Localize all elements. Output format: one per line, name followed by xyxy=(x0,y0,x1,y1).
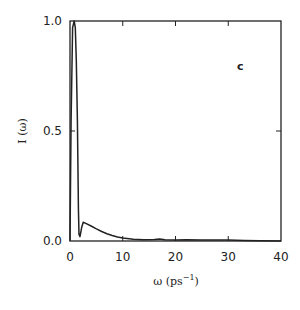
plot-border xyxy=(70,21,281,241)
y-tick-label: 0.5 xyxy=(43,124,62,138)
x-tick-label: 30 xyxy=(221,250,236,264)
y-tick-labels: 0.00.51.0 xyxy=(43,14,62,248)
x-tick-label: 10 xyxy=(115,250,130,264)
y-tick-label: 1.0 xyxy=(43,14,62,28)
x-axis-label-close: ) xyxy=(194,275,198,288)
x-tick-label: 20 xyxy=(168,250,183,264)
x-tick-label: 40 xyxy=(273,250,288,264)
panel-label: c xyxy=(237,60,244,73)
x-axis-label-main: ω (ps xyxy=(153,275,183,288)
x-tick-label: 0 xyxy=(66,250,74,264)
x-tick-labels: 010203040 xyxy=(66,250,288,264)
x-axis-label: ω (ps−1) xyxy=(153,273,199,288)
spectrum-curve xyxy=(70,21,281,241)
axis-ticks xyxy=(70,21,281,241)
y-axis-label: I (ω) xyxy=(16,118,29,143)
y-tick-label: 0.0 xyxy=(43,234,62,248)
spectrum-chart: 010203040 0.00.51.0 c ω (ps−1) I (ω) xyxy=(0,0,300,310)
x-axis-label-sup: −1 xyxy=(183,273,195,282)
plot-frame xyxy=(70,21,281,241)
